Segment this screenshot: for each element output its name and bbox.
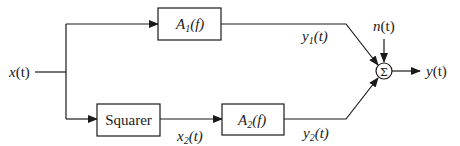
noise-signal-label: n(t)	[373, 18, 395, 35]
y1-signal-label: y1(t)	[300, 28, 328, 46]
svg-text:Squarer: Squarer	[105, 112, 152, 128]
input-signal-label: x(t)	[8, 64, 30, 81]
block-a1: A1(f)	[158, 8, 221, 40]
svg-text:A1(f): A1(f)	[175, 16, 204, 34]
y2-signal-label: y2(t)	[301, 125, 329, 143]
block-squarer: Squarer	[97, 104, 160, 136]
block-a2: A2(f)	[222, 104, 284, 135]
arrow-y1-to-summer	[221, 24, 378, 65]
summing-junction: Σ	[376, 63, 392, 79]
output-signal-label: y(t)	[424, 63, 447, 80]
arrow-y2-to-summer	[284, 78, 378, 119]
x2-signal-label: x2(t)	[176, 128, 203, 146]
svg-text:A2(f): A2(f)	[237, 112, 266, 130]
sigma-icon: Σ	[380, 66, 388, 79]
block-diagram: x(t) A1(f) Squarer x2(t) A2(f) y1(t) y2(…	[0, 0, 460, 146]
